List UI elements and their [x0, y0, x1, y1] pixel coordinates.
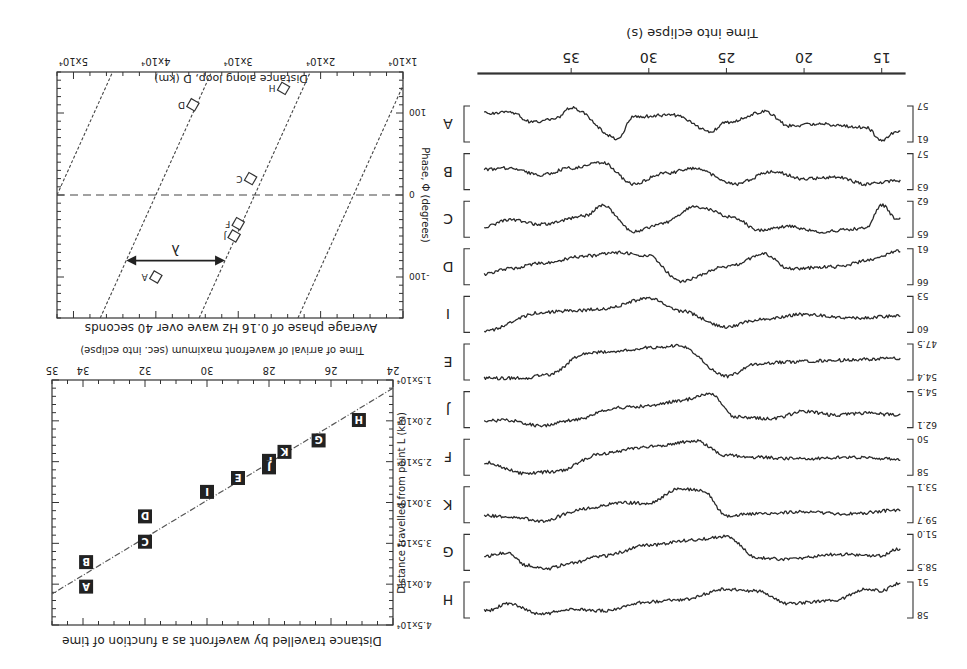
trace-ymin-label: 51: [917, 577, 928, 587]
wavefront-point-label: G: [314, 434, 322, 445]
trace-line: [484, 393, 900, 427]
phase-ytick-label: 0: [409, 189, 415, 199]
trace-line: [484, 344, 900, 379]
phase-xtick-label: 4x10⁴: [141, 56, 170, 67]
phase-xtick-label: 1x10⁴: [388, 56, 417, 67]
trace-ymax-label: 58: [917, 610, 929, 620]
phase-ytick-label: 100: [409, 107, 426, 117]
figure-canvas: Time into eclipse (s) 1520253035 5761A57…: [0, 0, 967, 669]
trace-label: E: [444, 354, 453, 370]
trace-line: [484, 440, 900, 475]
trace-ymax-label: 58.5: [917, 562, 937, 572]
wavefront-xtick-label: 30: [201, 365, 214, 376]
trace-bracket: [907, 344, 913, 380]
phase-point-D: [187, 99, 199, 111]
phase-ytick-label: -100: [409, 271, 430, 281]
trace-row-K: 53.159.7K: [443, 482, 937, 525]
trace-row-G: 51.058.5G: [443, 529, 937, 572]
phase-point-J: [228, 230, 240, 242]
trace-label: A: [443, 116, 453, 132]
trace-ymax-label: 54.4: [917, 372, 937, 382]
wavefront-ytick-label: 4.5x10⁴: [397, 620, 432, 630]
phase-point-label: J: [223, 231, 227, 241]
wavefront-panel: Time of arrival of wavefront maximum (se…: [46, 345, 432, 648]
figure-svg: Time into eclipse (s) 1520253035 5761A57…: [0, 0, 967, 669]
trace-ymax-label: 61: [917, 134, 928, 144]
trace-line: [484, 535, 900, 570]
wavefront-title: Distance travelled by wavefront as a fun…: [62, 634, 382, 648]
trace-row-F: 5058F: [444, 434, 928, 477]
trace-bracket-right: [464, 154, 470, 190]
trace-line: [484, 162, 900, 186]
trace-bracket: [907, 201, 913, 237]
trace-ymin-label: 57: [917, 101, 928, 111]
trace-ymax-label: 59.7: [917, 515, 937, 525]
trace-row-D: 6166D: [443, 244, 929, 287]
trace-line: [484, 250, 900, 283]
trace-label: I: [446, 306, 450, 322]
trace-line: [484, 204, 900, 233]
wavefront-fit-line: [52, 388, 393, 594]
wavefront-point-label: D: [141, 510, 149, 521]
trace-bracket: [907, 392, 913, 428]
trace-ymax-label: 66: [917, 277, 929, 287]
arrowhead-icon: [215, 256, 225, 266]
wavefront-point-label: H: [355, 414, 363, 425]
trace-row-B: 5763B: [443, 149, 928, 192]
traces-xtick-label: 20: [795, 50, 813, 66]
phase-point-C: [244, 172, 256, 184]
wavefront-xtick-label: 24: [387, 365, 400, 376]
trace-label: D: [443, 259, 454, 275]
wavefront-xtick-label: 34: [77, 365, 90, 376]
traces-xtick-label: 30: [640, 50, 658, 66]
trace-label: K: [443, 497, 453, 513]
phase-xtick-label: 3x10⁴: [224, 56, 253, 67]
trace-label: C: [443, 211, 453, 227]
trace-ymin-label: 54.5: [917, 387, 937, 397]
wavefront-point-label: J: [267, 461, 272, 472]
trace-ymin-label: 47.5: [917, 339, 937, 349]
wavefront-point-label: B: [82, 556, 90, 567]
trace-label: F: [444, 449, 452, 465]
trace-bracket-right: [464, 296, 470, 332]
trace-ymin-label: 51.0: [917, 529, 937, 539]
phase-point-label: D: [178, 100, 185, 110]
phase-point-A: [150, 271, 162, 283]
phase-ylabel: Phase, Φ (degrees): [420, 147, 431, 242]
traces-rows: 5761A5763B6265C6166D5360I47.554.4E54.562…: [443, 101, 937, 620]
trace-bracket-right: [464, 344, 470, 380]
trace-line: [484, 488, 900, 522]
traces-xlabel: Time into eclipse (s): [626, 26, 758, 41]
trace-label: J: [446, 402, 451, 418]
phase-point-label: A: [141, 272, 148, 282]
trace-bracket-right: [464, 201, 470, 237]
trace-bracket: [907, 106, 913, 142]
phase-guide-line: [298, 72, 409, 318]
trace-ymax-label: 62.1: [917, 420, 937, 430]
trace-bracket-right: [464, 534, 470, 570]
trace-row-C: 6265C: [443, 196, 929, 239]
trace-bracket-right: [464, 392, 470, 428]
wavefront-xtick-label: 26: [325, 365, 338, 376]
phase-title: Average phase of 0.16 Hz wave over 40 se…: [85, 321, 377, 335]
trace-bracket-right: [464, 439, 470, 475]
trace-row-E: 47.554.4E: [444, 339, 937, 382]
trace-bracket-right: [464, 249, 470, 285]
trace-row-J: 54.562.1J: [446, 387, 937, 430]
wavefront-xtick-label: 28: [263, 365, 276, 376]
trace-row-H: 5158H: [443, 577, 929, 620]
trace-bracket-right: [464, 582, 470, 618]
trace-row-I: 5360I: [446, 291, 929, 334]
wavefront-ytick-label: 1.5x10⁴: [397, 375, 432, 385]
traces-xtick-label: 15: [873, 50, 891, 66]
phase-point-label: H: [269, 83, 276, 93]
trace-label: G: [443, 544, 454, 560]
lambda-label: λ: [171, 242, 179, 258]
phase-point-label: F: [225, 219, 230, 229]
traces-panel: Time into eclipse (s) 1520253035 5761A57…: [443, 26, 937, 620]
trace-line: [484, 583, 900, 615]
trace-ymin-label: 61: [917, 244, 928, 254]
trace-ymin-label: 57: [917, 149, 928, 159]
trace-bracket: [907, 487, 913, 523]
trace-bracket: [907, 154, 913, 190]
